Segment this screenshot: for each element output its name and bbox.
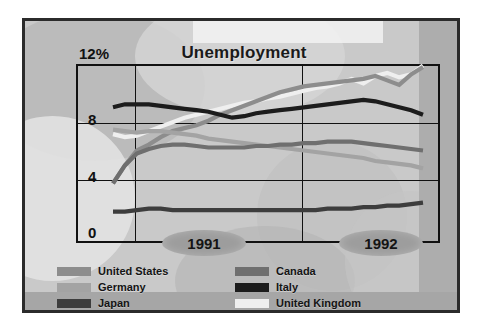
legend-swatch-italy xyxy=(235,283,269,292)
legend-swatch-japan xyxy=(57,299,91,308)
legend-label-united-kingdom: United Kingdom xyxy=(276,297,361,309)
legend-swatch-united-kingdom xyxy=(235,299,269,308)
legend-item-united-kingdom[interactable]: United Kingdom xyxy=(235,296,361,310)
legend-label-united-states: United States xyxy=(98,265,168,277)
legend-item-japan[interactable]: Japan xyxy=(57,296,235,310)
legend-swatch-united-states xyxy=(57,267,91,276)
legend-item-united-states[interactable]: United States xyxy=(57,264,235,278)
legend-column-left: United States Germany Japan xyxy=(57,264,235,310)
x-axis-year-1992: 1992 xyxy=(339,230,423,256)
legend-item-canada[interactable]: Canada xyxy=(235,264,361,278)
legend-swatch-germany xyxy=(57,283,91,292)
legend-swatch-canada xyxy=(235,267,269,276)
legend-label-canada: Canada xyxy=(276,265,316,277)
series-line-japan xyxy=(113,203,423,212)
legend-item-germany[interactable]: Germany xyxy=(57,280,235,294)
chart-legend: United States Germany Japan Canada xyxy=(57,264,457,310)
series-line-italy xyxy=(113,100,423,118)
legend-label-germany: Germany xyxy=(98,281,146,293)
chart-figure: Unemployment 12% 8 4 0 1991 1992 United … xyxy=(0,0,482,330)
legend-label-italy: Italy xyxy=(276,281,298,293)
x-axis-year-1991: 1991 xyxy=(162,230,246,256)
legend-item-italy[interactable]: Italy xyxy=(235,280,361,294)
legend-column-right: Canada Italy United Kingdom xyxy=(235,264,361,310)
legend-label-japan: Japan xyxy=(98,297,130,309)
chart-frame: Unemployment 12% 8 4 0 1991 1992 United … xyxy=(22,18,460,313)
